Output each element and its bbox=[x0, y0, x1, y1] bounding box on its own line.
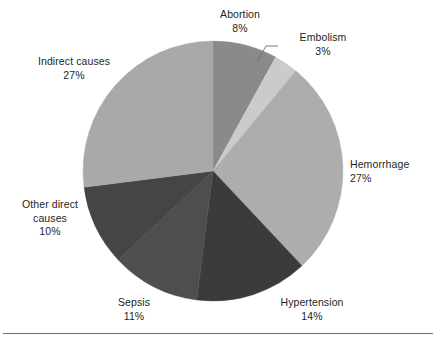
pie-label-abortion-value: 8% bbox=[192, 22, 288, 36]
pie-label-sepsis-name: Sepsis bbox=[92, 296, 176, 310]
pie-label-abortion-name: Abortion bbox=[192, 8, 288, 22]
pie-label-hypertension-name: Hypertension bbox=[258, 296, 366, 310]
pie-label-embolism-name: Embolism bbox=[278, 31, 368, 45]
pie-label-other-direct-causes-name-line2: causes bbox=[2, 212, 98, 226]
pie-label-abortion: Abortion 8% bbox=[192, 8, 288, 35]
pie-label-sepsis-value: 11% bbox=[92, 310, 176, 324]
pie-label-other-direct-causes: Other direct causes 10% bbox=[2, 198, 98, 239]
pie-label-indirect-causes-name: Indirect causes bbox=[18, 55, 130, 69]
pie-label-indirect-causes-value: 27% bbox=[18, 69, 130, 83]
pie-label-embolism-value: 3% bbox=[278, 45, 368, 59]
pie-label-hemorrhage-value: 27% bbox=[350, 172, 436, 186]
pie-label-hemorrhage-name: Hemorrhage bbox=[350, 158, 436, 172]
pie-label-other-direct-causes-value: 10% bbox=[2, 225, 98, 239]
pie-label-hemorrhage: Hemorrhage 27% bbox=[350, 158, 436, 185]
pie-chart-figure: Abortion 8% Embolism 3% Hemorrhage 27% H… bbox=[0, 0, 436, 345]
pie-label-other-direct-causes-name-line1: Other direct bbox=[2, 198, 98, 212]
pie-label-hypertension-value: 14% bbox=[258, 310, 366, 324]
pie-label-hypertension: Hypertension 14% bbox=[258, 296, 366, 323]
bottom-divider bbox=[3, 333, 433, 334]
pie-label-embolism: Embolism 3% bbox=[278, 31, 368, 58]
pie-label-indirect-causes: Indirect causes 27% bbox=[18, 55, 130, 82]
pie-label-sepsis: Sepsis 11% bbox=[92, 296, 176, 323]
